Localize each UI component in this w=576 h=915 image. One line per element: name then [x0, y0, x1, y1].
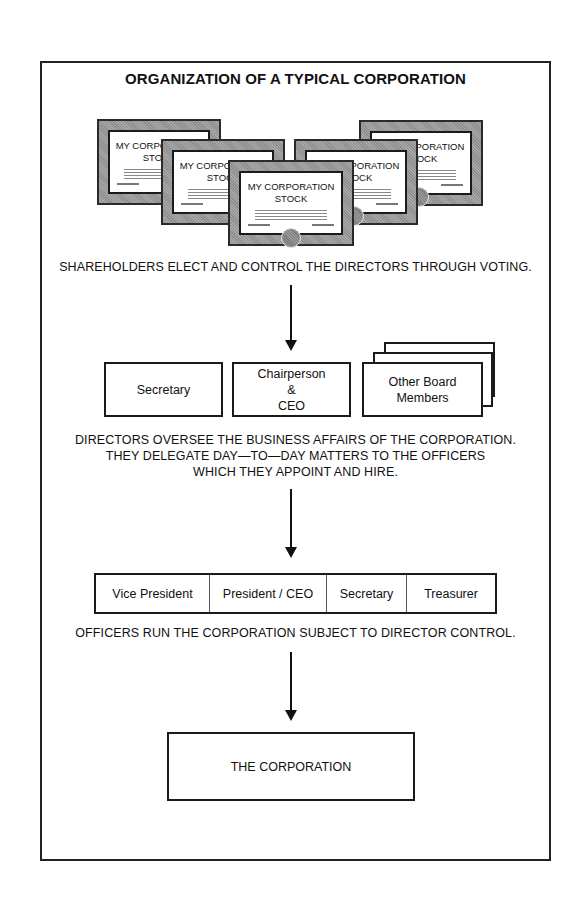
- officer-label: Vice President: [112, 587, 192, 601]
- directors-caption: DIRECTORS OVERSEE THE BUSINESS AFFAIRS O…: [40, 432, 551, 480]
- officer-vice-president: Vice President: [96, 575, 210, 612]
- officers-row: Vice President President / CEO Secretary…: [94, 573, 497, 614]
- arrow-down-icon: [285, 710, 297, 721]
- director-box-other-board-members: Other Board Members: [362, 362, 483, 417]
- certificate-text-lines: [255, 210, 327, 222]
- officer-label: Secretary: [340, 587, 394, 601]
- shareholders-caption: SHAREHOLDERS ELECT AND CONTROL THE DIREC…: [40, 259, 551, 275]
- caption-line: WHICH THEY APPOINT AND HIRE.: [40, 464, 551, 480]
- officer-label: President / CEO: [223, 587, 313, 601]
- certificate-title: MY CORPORATION STOCK: [241, 181, 341, 205]
- director-label: Chairperson & CEO: [257, 366, 325, 414]
- arrow-down-icon: [285, 340, 297, 351]
- officer-secretary: Secretary: [327, 575, 407, 612]
- caption-line: DIRECTORS OVERSEE THE BUSINESS AFFAIRS O…: [40, 432, 551, 448]
- signature-line: [376, 203, 398, 205]
- seal-icon: [281, 228, 301, 248]
- director-label: Secretary: [137, 382, 191, 398]
- corporation-label: THE CORPORATION: [231, 760, 352, 774]
- signature-line: [181, 203, 203, 205]
- director-label: Other Board Members: [388, 374, 456, 406]
- arrow-shaft: [290, 489, 292, 549]
- signature-line: [248, 224, 270, 226]
- arrow-shaft: [290, 652, 292, 712]
- officer-label: Treasurer: [424, 587, 478, 601]
- officer-president-ceo: President / CEO: [210, 575, 327, 612]
- officers-caption: OFFICERS RUN THE CORPORATION SUBJECT TO …: [40, 625, 551, 641]
- signature-line: [312, 224, 334, 226]
- stock-certificates-group: MY CORPORATION STOCK MY CORPORATION STOC…: [0, 0, 576, 250]
- officer-treasurer: Treasurer: [407, 575, 495, 612]
- stock-certificate-front: MY CORPORATION STOCK: [228, 160, 354, 246]
- director-box-chairperson-ceo: Chairperson & CEO: [232, 362, 351, 417]
- signature-line: [441, 184, 463, 186]
- director-box-secretary: Secretary: [104, 362, 223, 417]
- arrow-shaft: [290, 285, 292, 342]
- corporation-box: THE CORPORATION: [167, 732, 415, 801]
- arrow-down-icon: [285, 547, 297, 558]
- signature-line: [117, 183, 139, 185]
- caption-line: THEY DELEGATE DAY—TO—DAY MATTERS TO THE …: [40, 448, 551, 464]
